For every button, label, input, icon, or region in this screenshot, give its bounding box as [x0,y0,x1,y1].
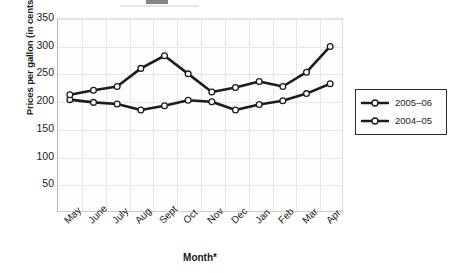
data-point [185,71,191,77]
data-point [91,87,97,93]
legend-item[interactable]: 2004–05 [361,112,441,130]
plot-area [57,18,343,212]
data-point [114,84,120,90]
cropped-title-remnant [146,0,168,4]
data-point [327,44,333,50]
data-point [138,66,144,72]
series-layer [58,19,342,211]
y-tick-label: 100 [18,151,54,162]
y-tick-label: 200 [18,95,54,106]
data-point [233,107,239,113]
x-axis-title: Month* [57,252,343,263]
line-chart: Prices per gallon (in cents) 50100150200… [0,0,452,273]
data-point [233,85,239,91]
data-point [185,97,191,103]
data-point [256,79,262,85]
data-point [209,89,215,95]
data-point [114,101,120,107]
data-point [138,107,144,113]
y-tick-label: 150 [18,123,54,134]
data-point [304,69,310,75]
y-tick-label: 300 [18,40,54,51]
y-tick-label: 50 [18,178,54,189]
x-axis-tick-labels: MayJuneJulyAugSeptOctNovDecJanFebMarApr [0,212,452,256]
series-line-2004-05 [70,46,330,94]
data-point [304,91,310,97]
data-point [280,98,286,104]
data-point [327,81,333,87]
data-point [67,92,73,98]
legend-label: 2005–06 [395,97,432,109]
legend-item[interactable]: 2005–06 [361,94,441,112]
legend-line-marker-icon [361,97,389,109]
y-tick-label: 350 [18,12,54,23]
data-point [280,84,286,90]
data-point [256,102,262,108]
data-point [162,103,168,109]
data-point [91,100,97,106]
legend-label: 2004–05 [395,115,432,127]
legend: 2005–062004–05 [355,89,447,135]
cropped-title-remnant-shadow [120,5,198,7]
y-tick-label: 250 [18,67,54,78]
data-point [162,53,168,59]
data-point [209,99,215,105]
legend-line-marker-icon [361,115,389,127]
